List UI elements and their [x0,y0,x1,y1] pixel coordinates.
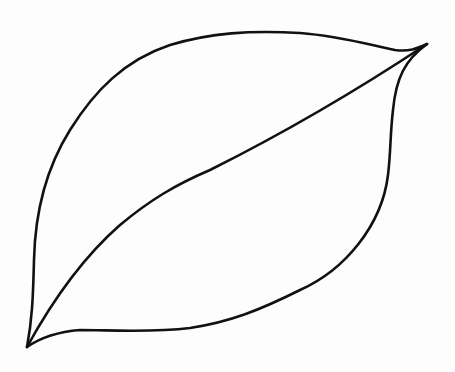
leaf-midrib [27,44,427,347]
leaf-upper-outline [27,32,427,347]
leaf-icon [0,0,455,372]
drawing-canvas [0,0,455,372]
leaf-lower-outline [27,44,427,347]
